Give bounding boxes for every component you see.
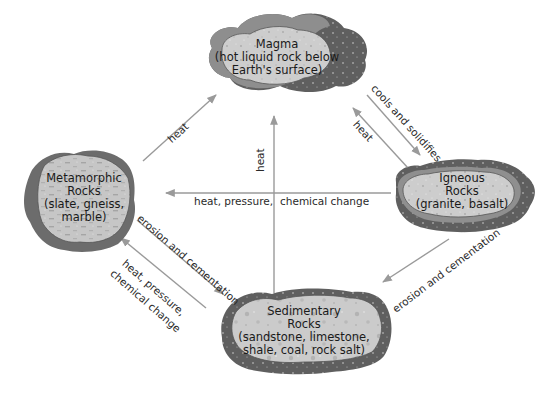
sedimentary-examples-2: shale, coal, rock salt): [224, 344, 384, 357]
label-heat-pressure-left: heat, pressure,: [194, 195, 273, 207]
metamorphic-examples-2: marble): [36, 211, 132, 224]
label-chemical-change-right: chemical change: [280, 195, 369, 207]
magma-label: Magma (hot liquid rock below Earth's sur…: [212, 38, 342, 77]
metamorphic-label: Metamorphic Rocks (slate, gneiss, marble…: [36, 172, 132, 224]
label-heat-sedimentary-to-magma: heat: [254, 148, 266, 172]
magma-desc-2: Earth's surface): [212, 64, 342, 77]
igneous-label: Igneous Rocks (granite, basalt): [408, 172, 516, 211]
sedimentary-label: Sedimentary Rocks (sandstone, limestone,…: [224, 305, 384, 357]
igneous-examples: (granite, basalt): [408, 198, 516, 211]
